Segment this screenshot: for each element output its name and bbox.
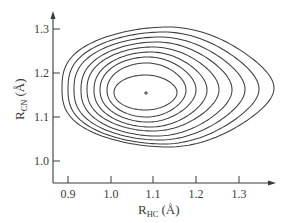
x-ticks: 0.91.01.11.21.3 xyxy=(61,176,247,201)
contour-lines xyxy=(62,27,274,147)
x-axis-arrow-icon xyxy=(268,181,276,186)
y-axis xyxy=(51,11,56,183)
y-tick-label: 1.0 xyxy=(34,154,49,168)
contour-line xyxy=(68,32,259,144)
x-axis xyxy=(53,181,276,186)
y-ticks: 1.01.11.21.3 xyxy=(34,22,60,168)
x-tick-label: 0.9 xyxy=(61,187,76,201)
y-tick-label: 1.1 xyxy=(34,110,49,124)
x-tick-label: 1.1 xyxy=(146,187,161,201)
contour-line xyxy=(81,42,232,136)
contour-chart: 0.91.01.11.21.3 1.01.11.21.3 RHC(Å) RCN(… xyxy=(0,0,288,223)
x-tick-label: 1.0 xyxy=(104,187,119,201)
y-axis-arrow-icon xyxy=(51,11,56,19)
contour-line xyxy=(107,63,186,117)
minimum-marker xyxy=(144,91,148,95)
x-tick-label: 1.2 xyxy=(189,187,204,201)
x-axis-label: RHC(Å) xyxy=(138,202,180,219)
x-tick-label: 1.3 xyxy=(232,187,247,201)
y-tick-label: 1.2 xyxy=(34,66,49,80)
y-tick-label: 1.3 xyxy=(34,22,49,36)
y-axis-label: RCN(Å) xyxy=(12,78,29,120)
